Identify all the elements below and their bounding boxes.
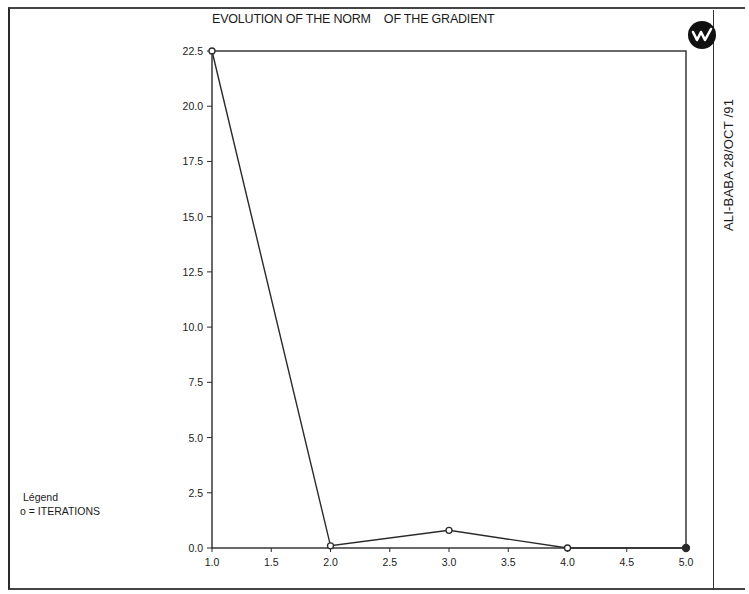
- data-point-marker: [446, 527, 452, 533]
- y-tick-label: 15.0: [183, 211, 204, 223]
- x-tick-label: 1.0: [205, 556, 220, 568]
- legend: Légend o = ITERATIONS: [20, 490, 100, 518]
- axes-frame: [212, 51, 686, 548]
- y-tick-label: 2.5: [188, 487, 203, 499]
- y-tick-label: 10.0: [183, 321, 204, 333]
- x-tick-label: 2.5: [382, 556, 397, 568]
- y-tick-label: 20.0: [183, 100, 204, 112]
- x-tick-label: 4.5: [619, 556, 634, 568]
- data-point-marker: [683, 545, 690, 552]
- x-tick-label: 3.5: [501, 556, 516, 568]
- plot-area: 0.02.55.07.510.012.515.017.520.022.51.01…: [0, 0, 749, 594]
- legend-title: Légend: [20, 490, 100, 504]
- y-tick-label: 5.0: [188, 432, 203, 444]
- x-tick-label: 4.0: [560, 556, 575, 568]
- x-tick-label: 1.5: [264, 556, 279, 568]
- x-tick-label: 5.0: [679, 556, 694, 568]
- y-tick-label: 7.5: [188, 376, 203, 388]
- y-tick-label: 22.5: [183, 45, 204, 57]
- legend-entry-iterations: o = ITERATIONS: [20, 504, 100, 518]
- data-point-marker: [328, 543, 334, 549]
- data-point-marker: [565, 545, 571, 551]
- y-tick-label: 0.0: [188, 542, 203, 554]
- series-line: [212, 51, 686, 548]
- x-tick-label: 3.0: [442, 556, 457, 568]
- y-tick-label: 17.5: [183, 155, 204, 167]
- data-point-marker: [209, 48, 215, 54]
- y-tick-label: 12.5: [183, 266, 204, 278]
- x-tick-label: 2.0: [323, 556, 338, 568]
